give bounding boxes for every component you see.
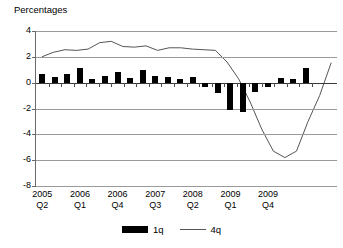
y-axis-tick-label: 4 <box>26 26 31 35</box>
x-label-quarter: Q2 <box>22 200 62 211</box>
x-axis-tick <box>86 83 87 87</box>
chart-container: Percentages 420-2-4-6-8 2005Q22006Q12006… <box>0 0 343 248</box>
gridline <box>36 109 337 110</box>
legend-label-4q: 4q <box>211 224 222 235</box>
bar-1q <box>190 77 196 83</box>
gridline <box>36 186 337 187</box>
x-label-quarter: Q4 <box>248 200 288 211</box>
bar-1q <box>89 79 95 83</box>
x-axis-tick <box>299 83 300 87</box>
bar-1q <box>152 76 158 82</box>
y-axis-tick-label: 2 <box>26 52 31 61</box>
bar-1q <box>290 79 296 83</box>
x-label-year: 2005 <box>22 189 62 200</box>
bar-1q <box>240 83 246 113</box>
legend-bar-swatch-icon <box>122 226 148 233</box>
x-axis-tick <box>111 83 112 87</box>
bar-1q <box>265 83 271 88</box>
bar-1q <box>215 83 221 93</box>
x-axis-tick <box>124 83 125 87</box>
x-label-quarter: Q1 <box>60 200 100 211</box>
x-axis-tick <box>74 83 75 87</box>
x-axis-tick-label: 2005Q2 <box>22 189 62 211</box>
x-label-year: 2006 <box>98 189 138 200</box>
x-axis-tick-label: 2006Q4 <box>98 189 138 211</box>
legend-line-swatch-icon <box>180 229 206 230</box>
bar-1q <box>202 83 208 87</box>
x-label-year: 2007 <box>135 189 175 200</box>
x-axis-tick-label: 2009Q4 <box>248 189 288 211</box>
x-axis-tick <box>237 83 238 87</box>
x-axis-tick <box>149 83 150 87</box>
bar-1q <box>115 72 121 82</box>
x-axis-tick <box>199 83 200 87</box>
bar-1q <box>165 77 171 83</box>
x-axis-tick-label: 2008Q2 <box>173 189 213 211</box>
x-label-year: 2009 <box>248 189 288 200</box>
x-label-quarter: Q2 <box>173 200 213 211</box>
x-axis-tick-label: 2009Q1 <box>210 189 250 211</box>
gridline <box>36 160 337 161</box>
bar-1q <box>252 83 258 93</box>
x-axis-tick <box>224 83 225 87</box>
legend-item-4q: 4q <box>180 224 222 235</box>
x-label-year: 2009 <box>210 189 250 200</box>
x-axis-tick <box>287 83 288 87</box>
y-axis-tick <box>32 57 36 58</box>
bar-1q <box>64 74 70 83</box>
bar-1q <box>177 79 183 83</box>
x-axis-tick <box>212 83 213 87</box>
x-axis-tick <box>262 83 263 87</box>
bar-1q <box>102 76 108 82</box>
y-axis-tick-label: -6 <box>23 155 31 164</box>
x-axis-tick <box>61 83 62 87</box>
x-axis-tick <box>187 83 188 87</box>
x-label-quarter: Q3 <box>135 200 175 211</box>
x-label-quarter: Q1 <box>210 200 250 211</box>
x-label-year: 2008 <box>173 189 213 200</box>
x-axis-tick <box>99 83 100 87</box>
chart-legend: 1q 4q <box>0 224 343 235</box>
y-axis-tick-label: 0 <box>26 78 31 87</box>
y-axis-tick <box>32 31 36 32</box>
x-axis-tick <box>312 83 313 87</box>
bar-1q <box>303 68 309 82</box>
bar-1q <box>227 83 233 110</box>
x-axis-labels: 2005Q22006Q12006Q42007Q32008Q22009Q12009… <box>0 189 343 223</box>
x-axis-tick <box>174 83 175 87</box>
y-axis-tick <box>32 186 36 187</box>
legend-item-1q: 1q <box>122 224 164 235</box>
bar-1q <box>127 78 133 83</box>
x-axis-tick <box>161 83 162 87</box>
y-axis-tick <box>32 109 36 110</box>
bar-1q <box>77 68 83 82</box>
y-axis-tick <box>32 160 36 161</box>
y-axis-tick-label: -4 <box>23 129 31 138</box>
gridline <box>36 134 337 135</box>
y-axis-tick <box>32 83 36 84</box>
plot-area <box>36 31 337 186</box>
x-label-year: 2006 <box>60 189 100 200</box>
gridline <box>36 31 337 32</box>
x-axis-tick-label: 2007Q3 <box>135 189 175 211</box>
x-axis-tick <box>249 83 250 87</box>
x-label-quarter: Q4 <box>98 200 138 211</box>
line-path-4q <box>42 41 331 157</box>
x-axis-tick <box>49 83 50 87</box>
x-axis-tick <box>136 83 137 87</box>
legend-label-1q: 1q <box>153 224 164 235</box>
x-axis-tick <box>274 83 275 87</box>
bar-1q <box>278 78 284 83</box>
y-axis-tick-label: -2 <box>23 104 31 113</box>
bar-1q <box>140 70 146 83</box>
bar-1q <box>52 77 58 83</box>
bar-1q <box>39 74 45 82</box>
y-axis-tick <box>32 134 36 135</box>
x-axis-tick-label: 2006Q1 <box>60 189 100 211</box>
gridline <box>36 57 337 58</box>
